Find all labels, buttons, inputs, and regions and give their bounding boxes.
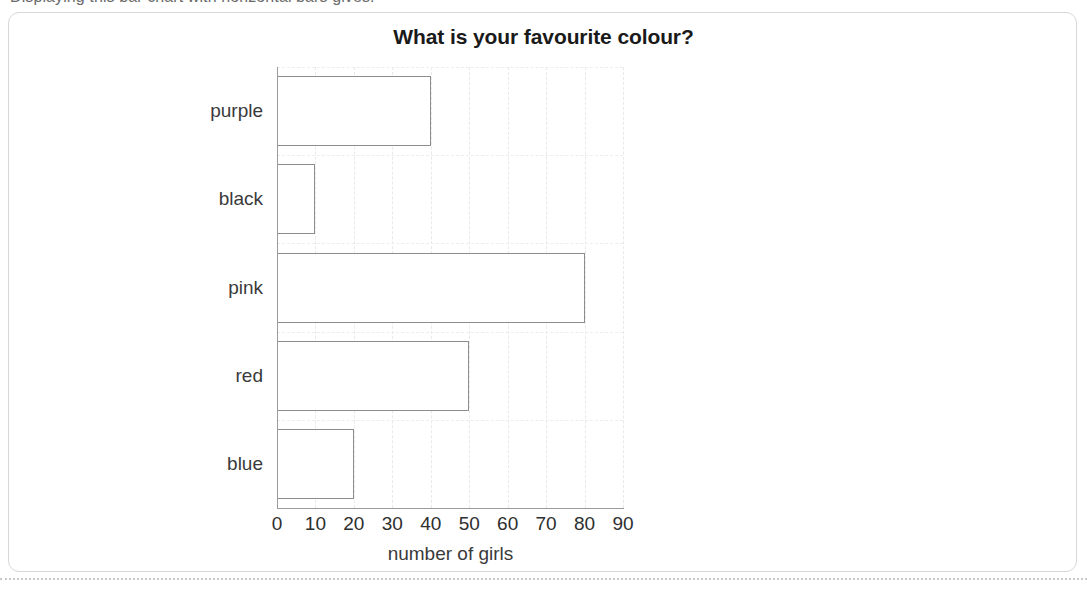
bar-purple: [277, 76, 431, 146]
x-tick-40: 40: [420, 513, 441, 535]
bar-red: [277, 341, 469, 411]
x-tick-50: 50: [459, 513, 480, 535]
category-label-black: black: [219, 189, 263, 208]
x-axis-title: number of girls: [277, 543, 624, 565]
gridline-horizontal: [277, 420, 623, 421]
x-tick-20: 20: [343, 513, 364, 535]
bar-chart-figure: purpleblackpinkredblue 01020304050607080…: [9, 13, 1078, 573]
category-label-red: red: [236, 366, 263, 385]
x-tick-0: 0: [272, 513, 283, 535]
gridline-horizontal: [277, 155, 623, 156]
bottom-separator: [0, 578, 1087, 580]
x-tick-80: 80: [574, 513, 595, 535]
x-tick-30: 30: [382, 513, 403, 535]
bar-pink: [277, 253, 585, 323]
category-label-blue: blue: [227, 454, 263, 473]
category-label-pink: pink: [228, 278, 263, 297]
x-axis-line: [277, 508, 624, 509]
x-tick-70: 70: [536, 513, 557, 535]
chart-card: What is your favourite colour? purplebla…: [8, 12, 1077, 572]
x-axis-tick-labels: 0102030405060708090: [277, 513, 637, 539]
bar-blue: [277, 429, 354, 499]
lead-in-text: Displaying this bar chart with horizonta…: [10, 0, 375, 6]
x-tick-90: 90: [612, 513, 633, 535]
y-axis-line: [277, 67, 278, 508]
x-tick-60: 60: [497, 513, 518, 535]
plot-area: [277, 67, 623, 508]
gridline-horizontal: [277, 243, 623, 244]
gridline-vertical: [623, 67, 624, 508]
gridline-horizontal: [277, 332, 623, 333]
bar-black: [277, 164, 315, 234]
x-tick-10: 10: [305, 513, 326, 535]
category-label-purple: purple: [210, 101, 263, 120]
gridline-horizontal: [277, 67, 623, 68]
gridline-vertical: [585, 67, 586, 508]
category-axis-labels: purpleblackpinkredblue: [159, 67, 263, 508]
